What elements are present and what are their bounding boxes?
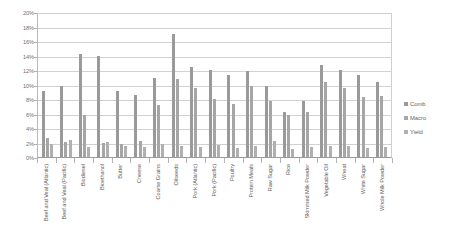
x-axis-tick — [205, 158, 206, 163]
x-axis-label-slot: Rice — [280, 164, 299, 248]
x-axis-label-slot: Skimmed Milk Powder — [299, 164, 318, 248]
bar[interactable] — [250, 86, 253, 159]
x-axis-tick-label: Pork (Atlantic) — [193, 164, 199, 198]
legend-item[interactable]: Comb — [404, 97, 453, 111]
bar[interactable] — [46, 138, 49, 158]
bar[interactable] — [139, 141, 142, 158]
bar-group — [335, 13, 354, 158]
x-axis-tick-label: Skimmed Milk Powder — [305, 164, 311, 218]
bar[interactable] — [291, 149, 294, 158]
bar[interactable] — [97, 56, 100, 158]
bar[interactable] — [376, 82, 379, 158]
bar-group — [38, 13, 57, 158]
bar[interactable] — [254, 146, 257, 158]
y-axis-tick-label: 12% — [0, 68, 34, 74]
bar-group — [354, 13, 373, 158]
bar[interactable] — [120, 144, 123, 159]
bar[interactable] — [87, 147, 90, 158]
x-axis-label-slot: Oilseeds — [168, 164, 187, 248]
bar[interactable] — [180, 146, 183, 158]
x-axis-tick-label: Vegetable Oil — [324, 164, 330, 197]
x-axis-tick-label: Butter — [118, 164, 124, 179]
bar[interactable] — [310, 147, 313, 158]
bar[interactable] — [324, 82, 327, 158]
bar[interactable] — [306, 112, 309, 158]
x-axis-label-slot: Pork (Atlantic) — [186, 164, 205, 248]
bar[interactable] — [384, 147, 387, 158]
bar[interactable] — [83, 115, 86, 159]
bar[interactable] — [269, 101, 272, 158]
x-axis-label-slot: Beef and Veal (Atlantic) — [37, 164, 56, 248]
bar[interactable] — [217, 145, 220, 158]
bar[interactable] — [357, 75, 360, 158]
x-axis-tick — [93, 158, 94, 163]
bar[interactable] — [236, 148, 239, 158]
bar[interactable] — [287, 115, 290, 158]
y-axis-tick-label: 6% — [0, 112, 34, 118]
bar[interactable] — [380, 96, 383, 158]
bar[interactable] — [190, 67, 193, 158]
bar[interactable] — [209, 70, 212, 158]
x-axis-tick-label: Whole Milk Powder — [380, 164, 386, 211]
x-axis-label-slot: Whole Milk Powder — [373, 164, 392, 248]
bar-group — [131, 13, 150, 158]
legend-item[interactable]: Macro — [404, 111, 453, 125]
x-axis-label-slot: White Sugar — [355, 164, 374, 248]
bar[interactable] — [172, 34, 175, 158]
bar-group — [280, 13, 299, 158]
plot-area — [37, 13, 392, 158]
bar[interactable] — [153, 78, 156, 158]
bar-groups — [37, 13, 392, 158]
bar[interactable] — [50, 144, 53, 158]
bar[interactable] — [265, 86, 268, 159]
bar[interactable] — [60, 86, 63, 159]
x-axis-tick — [149, 158, 150, 163]
bar[interactable] — [199, 147, 202, 158]
bar[interactable] — [64, 142, 67, 158]
bar[interactable] — [283, 112, 286, 158]
bar[interactable] — [143, 147, 146, 158]
bar[interactable] — [161, 144, 164, 158]
x-axis-tick-label: Coarse Grains — [156, 164, 162, 199]
bar[interactable] — [213, 99, 216, 158]
bar[interactable] — [366, 148, 369, 158]
bar-group — [168, 13, 187, 158]
y-axis: 0%2%4%6%8%10%12%14%16%18%20% — [0, 13, 34, 158]
bar[interactable] — [246, 71, 249, 158]
legend-label: Macro — [410, 115, 426, 121]
x-axis-tick — [299, 158, 300, 163]
legend-swatch-icon — [404, 130, 408, 134]
bar[interactable] — [102, 143, 105, 158]
bar-group — [94, 13, 113, 158]
bar[interactable] — [157, 105, 160, 158]
bar[interactable] — [42, 91, 45, 158]
x-axis-label-slot: Biodiesel — [74, 164, 93, 248]
bar[interactable] — [124, 146, 127, 158]
y-axis-tick-label: 2% — [0, 141, 34, 147]
bar-group — [372, 13, 391, 158]
bar[interactable] — [302, 101, 305, 158]
bar[interactable] — [347, 146, 350, 158]
bar[interactable] — [176, 79, 179, 158]
bar[interactable] — [79, 54, 82, 158]
bar[interactable] — [134, 95, 137, 158]
bar[interactable] — [343, 88, 346, 158]
bar[interactable] — [320, 65, 323, 158]
bar[interactable] — [227, 75, 230, 158]
legend-item[interactable]: Yield — [404, 125, 453, 139]
bar[interactable] — [362, 97, 365, 158]
bar-group — [57, 13, 76, 158]
x-axis-tick-label: Poultry — [230, 164, 236, 181]
bar[interactable] — [116, 91, 119, 158]
bar[interactable] — [194, 88, 197, 158]
bar[interactable] — [329, 146, 332, 158]
legend-label: Yield — [410, 129, 423, 135]
bar[interactable] — [232, 104, 235, 158]
bar[interactable] — [106, 142, 109, 158]
x-axis-label-slot: Beef and Veal (Pacific) — [56, 164, 75, 248]
bar[interactable] — [273, 141, 276, 158]
x-axis-ticks — [37, 158, 392, 163]
bar[interactable] — [69, 140, 72, 158]
x-axis-label-slot: Bioethanol — [93, 164, 112, 248]
bar[interactable] — [339, 70, 342, 158]
